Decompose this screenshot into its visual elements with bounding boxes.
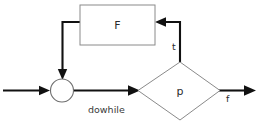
process-box-f-label: F (114, 19, 120, 32)
flow-diagram-canvas: F p t f dowhile (0, 0, 266, 128)
arrowhead-into-junction (58, 69, 67, 80)
arrowhead-input (39, 86, 50, 95)
true-edge-decision-to-f (155, 17, 180, 62)
dowhile-flow-diagram: F p t f dowhile (0, 0, 266, 128)
feedback-edge-f-to-junction (58, 22, 80, 80)
arrowhead-output (244, 85, 256, 96)
arrowhead-into-f-box (155, 17, 166, 26)
edge-label-false: f (226, 93, 230, 104)
input-edge (3, 86, 50, 95)
edge-junction-to-decision (73, 85, 140, 96)
edge-label-true: t (172, 41, 176, 52)
decision-diamond-p-label: p (177, 85, 184, 98)
false-output-edge (218, 85, 256, 96)
junction-circle (51, 79, 74, 102)
diagram-caption: dowhile (88, 104, 125, 115)
